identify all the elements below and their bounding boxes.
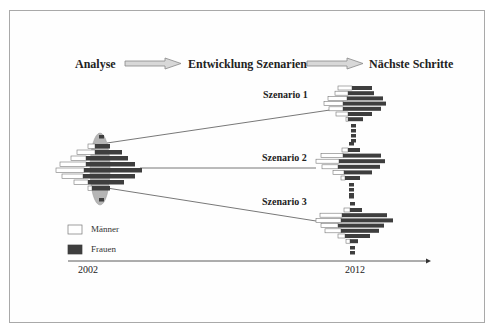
male-bar [60,162,86,167]
male-bar [325,229,341,233]
small-age-bar [349,188,354,192]
small-age-bar [349,142,354,146]
female-bar [341,229,379,233]
female-bar [84,168,142,173]
small-age-bar [351,129,356,133]
female-bar [348,148,360,152]
female-bar [339,159,385,163]
small-age-bar [349,195,354,199]
pyramid-scenario-1 [324,86,386,143]
female-bar [95,150,122,155]
female-bar [86,162,135,167]
small-age-bar [351,124,356,128]
legend-male-label: Männer [91,224,119,234]
male-bar [316,159,339,163]
male-bar [74,180,88,185]
male-bar [88,144,95,149]
male-bar [335,91,348,95]
male-bar [342,148,348,152]
male-bar [88,186,92,191]
scenario-2-label: Szenario 2 [262,152,307,163]
small-age-bar [350,202,355,206]
small-age-bar [350,251,355,255]
male-bar [322,165,338,169]
small-age-bar [351,134,356,138]
female-bar [345,176,360,180]
male-bar [329,107,343,111]
male-bar [316,218,341,222]
pyramid-scenario-2 [316,142,385,197]
pyramid-scenario-3 [316,195,393,255]
female-bar [350,239,358,243]
female-bar [350,208,362,212]
step-entwicklung-szenarien: Entwicklung Szenarien [188,57,307,72]
diagram-graphics [0,0,493,331]
male-bar [338,234,345,238]
female-bar [348,91,374,95]
male-bar [62,174,83,179]
timeline-start-label: 2002 [78,264,98,275]
small-age-bar [350,246,355,250]
male-bar [341,176,345,180]
legend-male-swatch [68,225,82,234]
male-bar [346,117,348,121]
scenario-1-label: Szenario 1 [263,89,308,100]
male-bar [328,96,347,100]
male-bar [77,150,95,155]
female-bar [348,117,363,121]
step-analyse: Analyse [75,57,116,72]
female-bar [343,102,386,106]
step-naechste-schritte: Nächste Schritte [369,57,453,72]
female-bar [338,224,384,228]
female-bar [343,107,381,111]
process-arrow-2 [307,58,363,69]
male-bar [71,156,86,161]
male-bar [321,224,338,228]
female-bar [95,144,110,149]
female-bar [341,218,393,222]
female-bar [345,234,370,238]
female-bar [352,86,372,90]
male-bar [344,208,350,212]
male-bar [336,112,348,116]
female-bar [343,154,381,158]
female-bar [338,165,380,169]
male-bar [333,170,344,174]
small-age-bar [351,139,356,143]
female-bar [342,213,387,217]
female-bar [344,170,372,174]
timeline-arrowhead [426,259,431,264]
male-bar [324,102,343,106]
male-bar [321,154,343,158]
scenario-3-label: Szenario 3 [262,196,307,207]
connector-scenario-1 [107,110,330,143]
small-age-bar [99,135,104,139]
female-bar [83,174,135,179]
male-bar [338,86,352,90]
process-arrow-1 [125,58,181,69]
female-bar [88,180,124,185]
female-bar [348,112,372,116]
small-age-bar [99,198,104,202]
male-bar [320,213,342,217]
female-bar [86,156,128,161]
legend-female-label: Frauen [91,244,116,254]
female-bar [347,96,383,100]
male-bar [346,239,350,243]
female-bar [92,186,110,191]
male-bar [56,168,84,173]
small-age-bar [349,183,354,187]
timeline-end-label: 2012 [345,264,365,275]
legend-female-swatch [68,245,82,254]
diagram-stage: Analyse Entwicklung Szenarien Nächste Sc… [0,0,493,331]
